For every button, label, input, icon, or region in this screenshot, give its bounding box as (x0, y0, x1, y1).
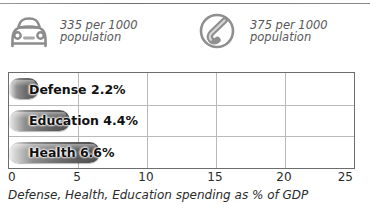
car-icon (6, 10, 52, 52)
bar-chart: Defense 2.2%Education 4.4%Health 6.6% (8, 72, 355, 169)
chart-plot-area: Defense 2.2%Education 4.4%Health 6.6% (9, 73, 354, 168)
chart-bar (9, 142, 100, 163)
chart-bar (9, 78, 39, 99)
x-axis-tick-label: 20 (276, 170, 291, 184)
stat-telephone-unit: population (250, 31, 328, 44)
infographic-panel: 335 per 1000 population 375 per 1000 pop… (0, 0, 370, 210)
stat-telephone: 375 per 1000 population (196, 10, 328, 52)
telephone-icon (196, 10, 242, 52)
chart-bar-row: Education 4.4% (9, 105, 354, 137)
stat-car-text: 335 per 1000 population (60, 19, 138, 44)
stat-car: 335 per 1000 population (6, 10, 138, 52)
chart-bar-row: Health 6.6% (9, 136, 354, 168)
x-axis-tick-label: 15 (207, 170, 222, 184)
x-axis-tick-label: 25 (338, 170, 353, 184)
top-divider (0, 3, 370, 4)
chart-bar-row: Defense 2.2% (9, 73, 354, 105)
header-stats: 335 per 1000 population 375 per 1000 pop… (0, 10, 370, 58)
x-axis-tick-label: 0 (8, 170, 16, 184)
x-axis-tick-label: 10 (138, 170, 153, 184)
x-axis: 0510152025 (8, 170, 355, 184)
chart-bar-label: Defense 2.2% (29, 81, 126, 96)
chart-bar (9, 110, 70, 131)
stat-car-unit: population (60, 31, 138, 44)
x-axis-tick-label: 5 (73, 170, 81, 184)
stat-telephone-text: 375 per 1000 population (250, 19, 328, 44)
chart-caption: Defense, Health, Education spending as %… (8, 188, 308, 202)
